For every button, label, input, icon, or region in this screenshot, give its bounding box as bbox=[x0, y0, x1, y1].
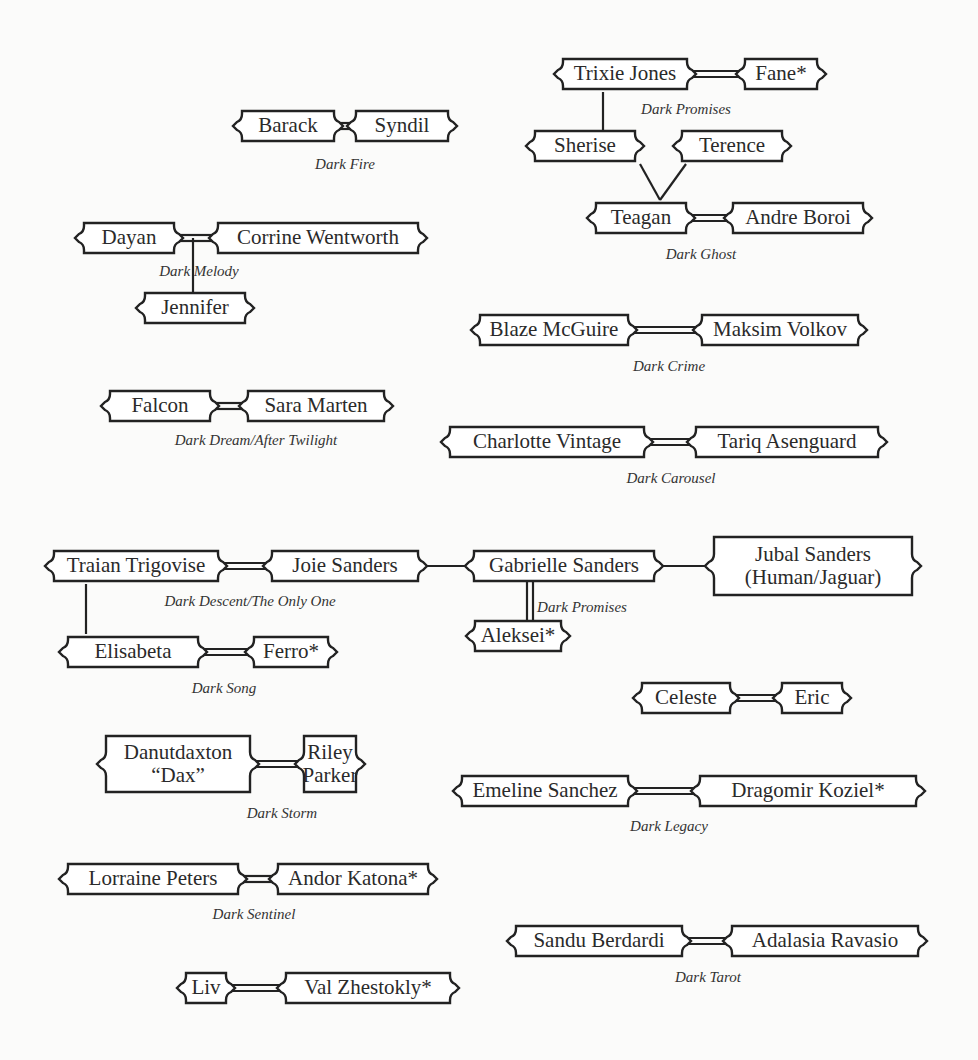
person-node-barack: Barack bbox=[232, 108, 344, 144]
book-title-caption: Dark Storm bbox=[247, 805, 317, 822]
person-name: Aleksei* bbox=[481, 624, 556, 647]
person-name: Fane* bbox=[755, 62, 806, 85]
person-name: Adalasia Ravasio bbox=[752, 929, 898, 952]
connector-lines bbox=[0, 0, 978, 1060]
person-name: Maksim Volkov bbox=[713, 318, 847, 341]
person-node-jubal: Jubal Sanders(Human/Jaguar) bbox=[704, 534, 922, 598]
person-name: Joie Sanders bbox=[292, 554, 398, 577]
book-title-caption: Dark Tarot bbox=[675, 969, 741, 986]
person-node-sherise: Sherise bbox=[525, 128, 645, 164]
person-name-line: Riley bbox=[303, 741, 358, 764]
person-node-dayan: Dayan bbox=[74, 220, 184, 256]
person-node-celeste: Celeste bbox=[632, 680, 740, 716]
person-name: Andor Katona* bbox=[288, 867, 418, 890]
person-name: Sara Marten bbox=[264, 394, 367, 417]
person-name: Charlotte Vintage bbox=[473, 430, 621, 453]
book-title-caption: Dark Legacy bbox=[630, 818, 708, 835]
person-node-terence: Terence bbox=[672, 128, 792, 164]
person-node-charlotte: Charlotte Vintage bbox=[440, 424, 654, 460]
person-name: Corrine Wentworth bbox=[237, 226, 399, 249]
person-node-liv: Liv bbox=[176, 970, 236, 1006]
person-node-fane: Fane* bbox=[735, 56, 827, 92]
book-title-caption: Dark Promises bbox=[641, 101, 731, 118]
person-name: Falcon bbox=[131, 394, 188, 417]
person-name: Ferro* bbox=[263, 640, 319, 663]
person-node-syndil: Syndil bbox=[346, 108, 458, 144]
person-node-sara: Sara Marten bbox=[238, 388, 394, 424]
person-name: Eric bbox=[795, 686, 830, 709]
person-name: Terence bbox=[699, 134, 765, 157]
person-node-maksim: Maksim Volkov bbox=[692, 312, 868, 348]
person-node-tariq: Tariq Asenguard bbox=[686, 424, 888, 460]
person-node-sandu: Sandu Berdardi bbox=[506, 923, 692, 959]
person-node-adalasia: Adalasia Ravasio bbox=[722, 923, 928, 959]
person-node-gabrielle: Gabrielle Sanders bbox=[464, 548, 664, 584]
person-name: Dragomir Koziel* bbox=[731, 779, 884, 802]
book-title-caption: Dark Melody bbox=[159, 263, 239, 280]
person-name: Val Zhestokly* bbox=[304, 976, 432, 999]
person-name: Andre Boroi bbox=[745, 206, 851, 229]
person-name-line: Parker bbox=[303, 764, 358, 787]
person-node-trixie: Trixie Jones bbox=[553, 56, 697, 92]
person-node-andor: Andor Katona* bbox=[268, 861, 438, 897]
person-name: Syndil bbox=[375, 114, 430, 137]
family-chart: BarackSyndilTrixie JonesFane*SheriseTere… bbox=[0, 0, 978, 1060]
person-name: Elisabeta bbox=[95, 640, 172, 663]
book-title-caption: Dark Fire bbox=[315, 156, 375, 173]
person-name: Sherise bbox=[554, 134, 616, 157]
person-name: Celeste bbox=[655, 686, 717, 709]
person-name-line: Jubal Sanders bbox=[745, 543, 881, 566]
person-name: Jennifer bbox=[161, 296, 229, 319]
person-name: Dayan bbox=[102, 226, 157, 249]
person-name: Tariq Asenguard bbox=[717, 430, 856, 453]
book-title-caption: Dark Ghost bbox=[666, 246, 736, 263]
person-name: Danutdaxton“Dax” bbox=[124, 741, 232, 787]
person-node-traian: Traian Trigovise bbox=[44, 548, 228, 584]
person-name: Jubal Sanders(Human/Jaguar) bbox=[745, 543, 881, 589]
person-node-emeline: Emeline Sanchez bbox=[452, 773, 638, 809]
person-name: Emeline Sanchez bbox=[472, 779, 617, 802]
person-name: Sandu Berdardi bbox=[533, 929, 664, 952]
person-name: Liv bbox=[191, 976, 220, 999]
person-node-aleksei: Aleksei* bbox=[465, 618, 571, 654]
person-node-ferro: Ferro* bbox=[244, 634, 338, 670]
book-title-caption: Dark Sentinel bbox=[213, 906, 296, 923]
book-title-caption: Dark Carousel bbox=[626, 470, 715, 487]
person-name-line: (Human/Jaguar) bbox=[745, 566, 881, 589]
person-name: Gabrielle Sanders bbox=[489, 554, 639, 577]
book-title-caption: Dark Promises bbox=[537, 599, 627, 616]
person-node-eric: Eric bbox=[772, 680, 852, 716]
person-name: Traian Trigovise bbox=[67, 554, 206, 577]
person-name-line: “Dax” bbox=[124, 764, 232, 787]
person-node-falcon: Falcon bbox=[100, 388, 220, 424]
person-node-blaze: Blaze McGuire bbox=[470, 312, 638, 348]
person-node-elisabeta: Elisabeta bbox=[58, 634, 208, 670]
person-node-joie: Joie Sanders bbox=[262, 548, 428, 584]
book-title-caption: Dark Crime bbox=[633, 358, 705, 375]
person-node-teagan: Teagan bbox=[586, 200, 696, 236]
person-name: RileyParker bbox=[303, 741, 358, 787]
person-name: Teagan bbox=[611, 206, 671, 229]
person-node-riley: RileyParker bbox=[294, 733, 366, 795]
person-node-danutdaxton: Danutdaxton“Dax” bbox=[96, 733, 260, 795]
person-node-val: Val Zhestokly* bbox=[276, 970, 460, 1006]
book-title-caption: Dark Descent/The Only One bbox=[164, 593, 335, 610]
person-node-lorraine: Lorraine Peters bbox=[58, 861, 248, 897]
person-name-line: Danutdaxton bbox=[124, 741, 232, 764]
person-node-andre: Andre Boroi bbox=[723, 200, 873, 236]
person-name: Lorraine Peters bbox=[89, 867, 218, 890]
person-name: Barack bbox=[258, 114, 317, 137]
person-node-jennifer: Jennifer bbox=[135, 290, 255, 326]
person-name: Trixie Jones bbox=[574, 62, 677, 85]
book-title-caption: Dark Song bbox=[192, 680, 257, 697]
person-name: Blaze McGuire bbox=[490, 318, 619, 341]
book-title-caption: Dark Dream/After Twilight bbox=[175, 432, 338, 449]
person-node-corrine: Corrine Wentworth bbox=[208, 220, 428, 256]
person-node-dragomir: Dragomir Koziel* bbox=[690, 773, 926, 809]
